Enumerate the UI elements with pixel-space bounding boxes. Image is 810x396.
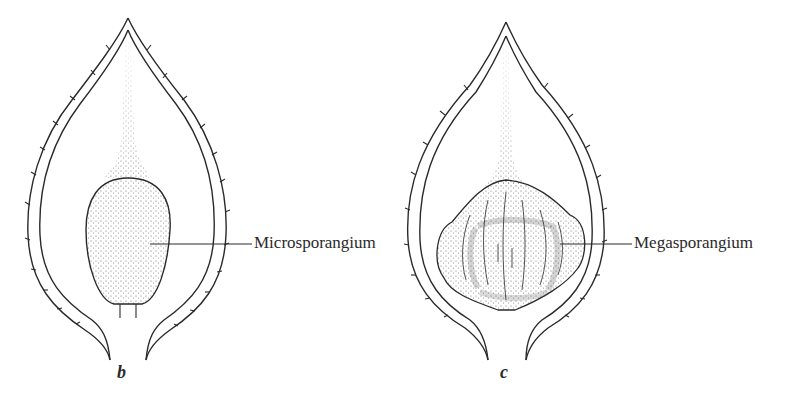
- label-megasporangium: Megasporangium: [634, 233, 753, 253]
- microsporangium: [86, 178, 170, 318]
- label-microsporangium: Microsporangium: [254, 233, 376, 253]
- megasporangium: [437, 180, 585, 310]
- figure-letter-c: c: [500, 362, 508, 383]
- diagram-canvas: [0, 0, 810, 396]
- figure-letter-b: b: [117, 362, 126, 383]
